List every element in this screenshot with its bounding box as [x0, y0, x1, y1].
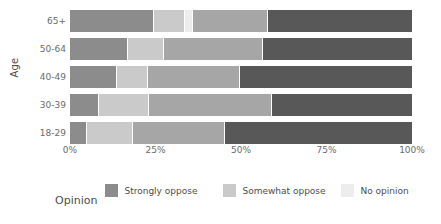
bar-row	[70, 66, 412, 88]
bar-segment	[117, 66, 148, 88]
bar-segment	[87, 122, 132, 144]
legend-item-label: Somewhat oppose	[242, 186, 325, 196]
y-tick-label: 30-39	[18, 94, 66, 116]
legend-items: Strongly opposeSomewhat opposeNo opinion…	[105, 180, 441, 201]
legend-swatch-icon	[105, 184, 118, 197]
y-tick-label: 50-64	[18, 38, 66, 60]
bar-segment	[70, 38, 128, 60]
bar-segment	[185, 10, 194, 32]
plot-area	[70, 8, 412, 142]
bar-segment	[164, 38, 263, 60]
bar-row	[70, 38, 412, 60]
bar-segment	[225, 122, 412, 144]
legend: Opinion Strongly opposeSomewhat opposeNo…	[55, 180, 441, 222]
y-tick-label: 65+	[18, 10, 66, 32]
legend-item[interactable]: Strongly oppose	[105, 180, 223, 201]
y-tick-label: 40-49	[18, 66, 66, 88]
bar-segment	[70, 94, 99, 116]
bar-segment	[70, 122, 87, 144]
bar-segment	[70, 10, 154, 32]
bar-segment	[70, 66, 117, 88]
legend-swatch-icon	[341, 184, 354, 197]
legend-swatch-icon	[223, 184, 236, 197]
bar-segment	[133, 122, 225, 144]
legend-title: Opinion	[55, 180, 105, 222]
bar-segment	[128, 38, 164, 60]
bar-row	[70, 122, 412, 144]
x-tick-label: 75%	[316, 145, 336, 155]
x-tick-label: 25%	[145, 145, 165, 155]
bar-segment	[193, 10, 268, 32]
legend-item[interactable]: No opinion	[341, 180, 441, 201]
bar-segment	[240, 66, 412, 88]
x-axis-tick-labels: 0%25%50%75%100%	[70, 145, 412, 159]
legend-item-label: No opinion	[360, 186, 408, 196]
y-axis-tick-labels: 65+ 50-64 40-49 30-39 18-29	[14, 8, 66, 142]
bar-segment	[154, 10, 185, 32]
bar-segment	[99, 94, 149, 116]
bar-segment	[272, 94, 412, 116]
bar-segment	[263, 38, 412, 60]
bar-row	[70, 10, 412, 32]
legend-item-label: Strongly oppose	[124, 186, 197, 196]
x-tick-label: 0%	[63, 145, 77, 155]
bar-segment	[149, 94, 272, 116]
legend-item[interactable]: Somewhat oppose	[223, 180, 341, 201]
x-tick-label: 50%	[231, 145, 251, 155]
bar-segment	[148, 66, 240, 88]
bar-row	[70, 94, 412, 116]
bar-segment	[268, 10, 412, 32]
stacked-bar-chart: Age 65+ 50-64 40-49 30-39 18-29 0%25%50%…	[0, 0, 441, 224]
y-tick-label: 18-29	[18, 122, 66, 144]
x-tick-label: 100%	[399, 145, 425, 155]
